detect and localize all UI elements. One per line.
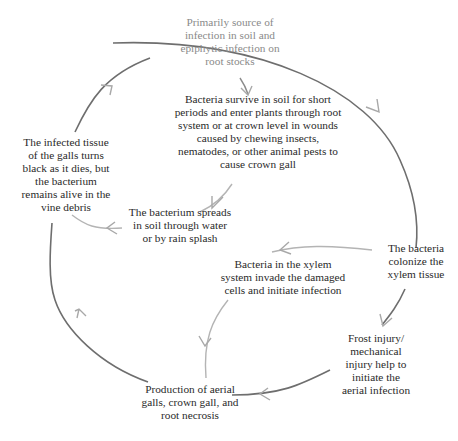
node-colonize-xylem: The bacteria colonize the xylem tissue <box>376 242 456 281</box>
arrow-production-to-infected <box>50 223 148 382</box>
arrow-colonize-to-frost <box>382 289 405 325</box>
node-frost-injury: Frost injury/ mechanical injury help to … <box>328 332 424 397</box>
arrow-infected-to-primary <box>75 58 150 132</box>
node-xylem-invade: Bacteria in the xylem system invade the … <box>212 258 354 297</box>
node-spreads-in-soil: The bacterium spreads in soil through wa… <box>116 206 244 245</box>
node-production-galls: Production of aerial galls, crown gall, … <box>128 383 252 422</box>
disease-cycle-diagram: Primarily source of infection in soil an… <box>0 0 458 441</box>
arrowhead-up-right-icon <box>101 85 112 95</box>
arrowhead-right-icon <box>366 99 379 112</box>
arrow-colonize-to-invade <box>272 246 372 252</box>
node-infected-tissue: The infected tissue of the galls turns b… <box>10 136 122 214</box>
node-survive-in-soil: Bacteria survive in soil for short perio… <box>172 93 344 171</box>
arrowhead-up-icon <box>75 309 86 318</box>
arrowhead-down-inner-icon <box>199 336 211 346</box>
node-primary-source: Primarily source of infection in soil an… <box>160 16 300 68</box>
arrow-invade-to-production <box>205 300 228 378</box>
